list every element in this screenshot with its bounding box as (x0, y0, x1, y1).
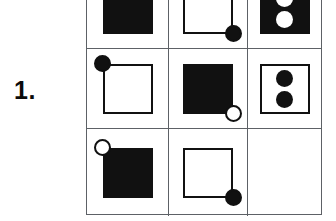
matrix-cell-r3c1[interactable] (87, 129, 169, 216)
figure-r1c3 (256, 0, 314, 38)
open-corner-circle-icon (225, 105, 242, 122)
filled-square-shape (103, 148, 153, 198)
matrix-cell-r3c3[interactable] (248, 129, 321, 216)
figure-r1c2 (179, 0, 237, 38)
matrix-cell-r1c1[interactable] (87, 0, 169, 49)
matrix-grid (86, 0, 322, 215)
filled-corner-circle-icon (94, 55, 111, 72)
filled-square-shape (103, 0, 153, 34)
black-inner-dot-icon (276, 91, 293, 108)
matrix-cell-r2c1[interactable] (87, 49, 169, 129)
filled-square-shape (183, 64, 233, 114)
figure-r1c1 (99, 0, 157, 38)
matrix-cell-r2c3[interactable] (248, 49, 321, 129)
figure-r2c1 (99, 60, 157, 118)
inner-dots-group (260, 64, 310, 114)
figure-r3c2 (179, 144, 237, 202)
figure-r3c1 (99, 144, 157, 202)
filled-corner-circle-icon (225, 25, 242, 42)
open-corner-circle-icon (94, 139, 111, 156)
black-inner-dot-icon (276, 70, 293, 87)
item-number-label: 1. (14, 78, 74, 103)
matrix-reasoning-puzzle: 1. (0, 0, 336, 221)
figure-r2c3 (256, 60, 314, 118)
figure-r2c2 (179, 60, 237, 118)
matrix-cell-r1c2[interactable] (169, 0, 248, 49)
filled-corner-circle-icon (225, 189, 242, 206)
white-inner-dot-icon (276, 0, 293, 7)
inner-dots-group (260, 0, 310, 34)
matrix-cell-r2c2[interactable] (169, 49, 248, 129)
matrix-cell-r3c2[interactable] (169, 129, 248, 216)
outline-square-shape (103, 64, 153, 114)
matrix-cell-r1c3[interactable] (248, 0, 321, 49)
outline-square-shape (183, 148, 233, 198)
white-inner-dot-icon (276, 11, 293, 28)
